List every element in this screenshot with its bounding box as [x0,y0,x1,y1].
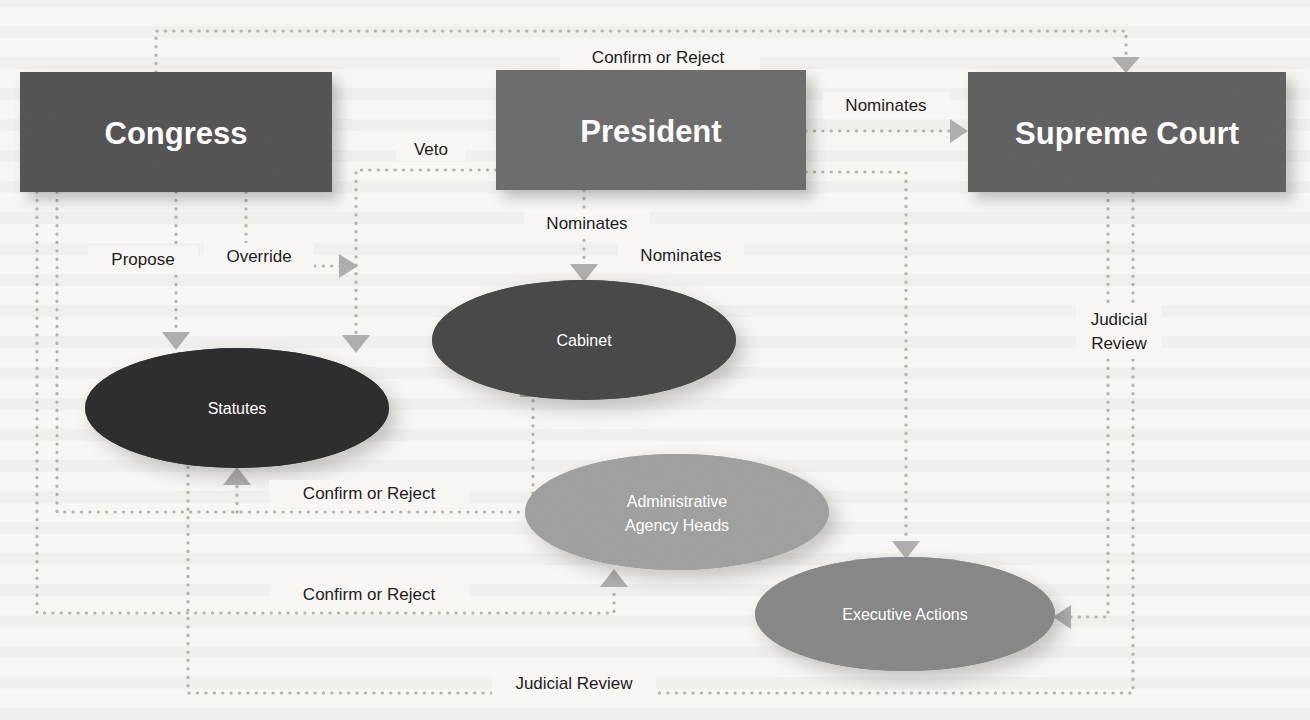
node-executive-actions[interactable]: Executive Actions [755,557,1055,671]
edge-president-nominates-cabinet [570,190,598,282]
edge-president-nominates-supreme [806,119,968,143]
edge-supreme-review-execactions [1053,192,1108,629]
edge-label-supreme-review-execactions: Judicial Review [1076,305,1162,357]
edge-label-president-nominates-supreme: Nominates [823,92,949,117]
edge-label-president-nominates-cabinet: Nominates [524,210,650,235]
judicial-review-line2: Review [1091,334,1147,353]
node-cabinet[interactable]: Cabinet [432,280,736,400]
node-label-statutes: Statutes [208,400,267,417]
edge-label-supreme-review-statutes: Judicial Review [492,670,656,696]
node-statutes[interactable]: Statutes [85,348,389,468]
svg-text:Confirm or Reject: Confirm or Reject [303,585,436,604]
svg-text:Confirm or Reject: Confirm or Reject [592,48,725,67]
edge-label-congress-confirm-agency: Confirm or Reject [269,581,469,607]
svg-text:Confirm or Reject: Confirm or Reject [303,484,436,503]
node-label-supreme-court: Supreme Court [1015,116,1239,151]
edge-label-congress-override-statutes: Override [204,243,314,268]
edge-label-congress-confirm-cabinet: Confirm or Reject [269,480,469,506]
node-label-congress: Congress [105,116,248,151]
judicial-review-line1: Judicial [1091,310,1148,329]
node-label-executive-actions: Executive Actions [842,606,967,623]
svg-text:Override: Override [226,247,291,266]
edge-label-congress-propose-statutes: Propose [88,246,198,271]
svg-text:Veto: Veto [414,140,448,159]
edge-statutes-bottom-feeder [223,467,251,512]
node-label-cabinet: Cabinet [556,332,612,349]
svg-text:Nominates: Nominates [546,214,627,233]
node-layer: Congress President Supreme Court Statute… [20,70,1286,671]
edge-label-president-veto-statutes: Veto [396,136,466,161]
edge-label-president-nominates-agency: Nominates [618,242,744,267]
node-label-president: President [580,114,721,149]
node-supreme-court[interactable]: Supreme Court [968,72,1286,192]
diagram-page: Congress President Supreme Court Statute… [0,0,1310,720]
svg-text:Nominates: Nominates [640,246,721,265]
node-agency-heads[interactable]: Administrative Agency Heads [525,454,829,570]
svg-text:Judicial Review: Judicial Review [515,674,633,693]
node-congress[interactable]: Congress [20,72,332,192]
svg-text:Nominates: Nominates [845,96,926,115]
svg-text:Propose: Propose [111,250,174,269]
node-president[interactable]: President [496,70,806,190]
node-label-agency-heads-line1: Administrative [627,493,728,510]
checks-and-balances-diagram: Congress President Supreme Court Statute… [0,0,1310,720]
edge-label-congress-confirm-supreme: Confirm or Reject [560,44,760,70]
node-label-agency-heads-line2: Agency Heads [625,517,729,534]
